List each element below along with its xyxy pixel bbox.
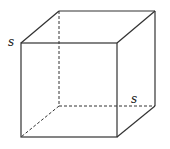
edge-bottom-right-depth xyxy=(117,106,155,137)
edge-label-bottom-right: s xyxy=(131,92,137,106)
visible-edges xyxy=(21,11,155,137)
hidden-edge-depth-bottom-left xyxy=(21,106,59,137)
hidden-edges xyxy=(21,11,155,137)
edge-top-right-depth xyxy=(117,11,155,43)
edge-top-left-depth xyxy=(21,11,59,43)
front-face xyxy=(21,43,117,137)
edge-label-left: s xyxy=(8,35,14,49)
cube-diagram: s s xyxy=(0,0,170,149)
